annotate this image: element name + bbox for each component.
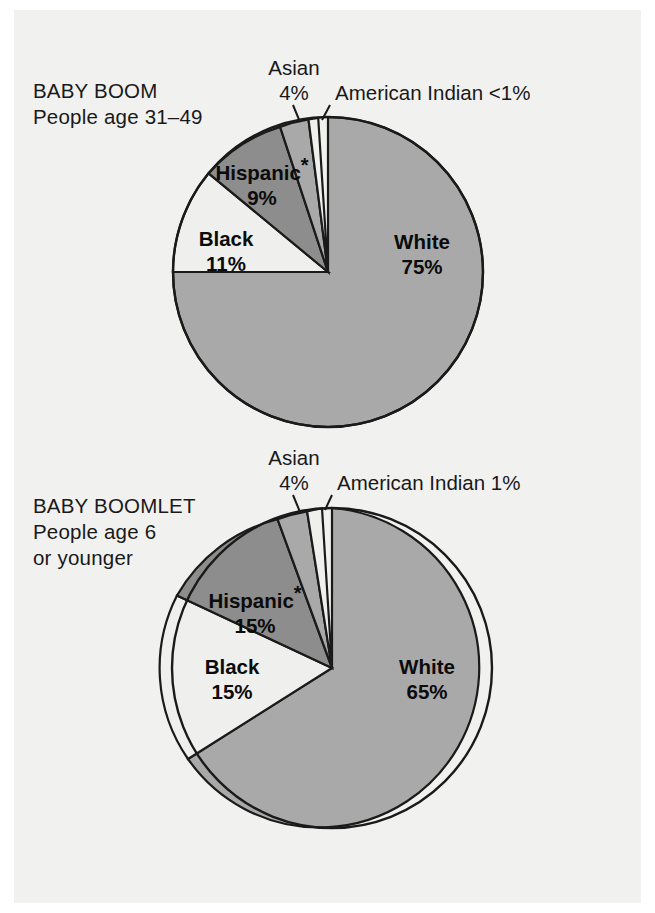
- chart-title-baby-boomlet: BABY BOOMLET People age 6 or younger: [33, 493, 196, 571]
- slice-label-hispanic-value: 15%: [190, 613, 320, 638]
- footnote-asterisk: *: [294, 582, 302, 604]
- slice-label-black-baby-boomlet: Black 15%: [180, 654, 284, 704]
- slice-label-white-baby-boomlet: White 65%: [375, 654, 479, 704]
- chart-title-line-2: People age 6: [33, 519, 196, 545]
- callout-american-indian-label: American Indian 1%: [337, 470, 520, 495]
- slice-label-white-name: White: [375, 654, 479, 679]
- pie-chart-baby-boomlet: BABY BOOMLET People age 6 or younger Asi…: [0, 0, 655, 913]
- callout-asian-baby-boomlet: Asian 4%: [256, 445, 332, 495]
- slice-label-hispanic-name: Hispanic*: [190, 588, 320, 613]
- chart-title-line-3: or younger: [33, 545, 196, 571]
- slice-label-black-name: Black: [180, 654, 284, 679]
- chart-title-line-1: BABY BOOMLET: [33, 493, 196, 519]
- callout-asian-label: Asian: [256, 445, 332, 470]
- slice-label-white-value: 65%: [375, 679, 479, 704]
- figure-page: BABY BOOM People age 31–49 Asian 4% Amer…: [0, 0, 655, 913]
- callout-asian-value: 4%: [256, 470, 332, 495]
- callout-american-indian-baby-boomlet: American Indian 1%: [337, 470, 520, 495]
- slice-label-hispanic-baby-boomlet: Hispanic* 15%: [190, 588, 320, 638]
- slice-label-black-value: 15%: [180, 679, 284, 704]
- leader-line-asian-baby-boomlet: [293, 495, 300, 512]
